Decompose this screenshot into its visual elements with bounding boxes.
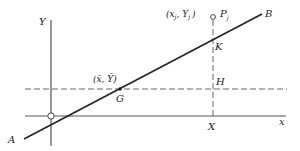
centroid-point-g — [118, 87, 122, 91]
observation-coord-label: (xj, Yj) — [166, 9, 196, 21]
regression-diagram: Y x A B (x̄, Ȳ) G (xj, Yj) Pj K H X — [0, 0, 300, 151]
observation-point-pj — [211, 15, 216, 20]
y-axis-label: Y — [39, 16, 47, 27]
observation-label-pj: Pj — [219, 8, 229, 22]
line-end-label-b: B — [264, 8, 272, 19]
intersection-label-h: H — [215, 76, 225, 87]
origin-point — [48, 113, 54, 119]
foot-label-x: X — [207, 121, 216, 132]
centroid-coord-label: (x̄, Ȳ) — [93, 73, 117, 84]
x-axis-label: x — [279, 116, 285, 127]
intersection-label-k: K — [214, 41, 223, 52]
regression-line-ab — [24, 14, 262, 139]
line-start-label-a: A — [7, 134, 15, 145]
centroid-label-g: G — [116, 93, 124, 104]
